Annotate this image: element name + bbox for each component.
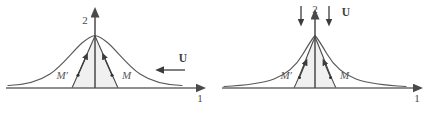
point-marker-m [111, 74, 114, 77]
figure-container: 2 1 M′ M U [0, 0, 433, 114]
m-prime-label: M′ [55, 69, 68, 81]
point-marker-m [329, 76, 332, 79]
smooth-peak-panel: 2 1 M′ M U [0, 0, 216, 114]
velocity-vector-u-label: U [179, 52, 188, 64]
vertical-axis-label: 2 [82, 14, 88, 26]
m-prime-label: M′ [279, 69, 292, 81]
horizontal-axis-label: 1 [197, 92, 203, 104]
velocity-vector-u-label: U [342, 6, 351, 18]
m-label: M [339, 69, 350, 81]
cusp-peak-panel: 2 1 M′ M U [216, 0, 433, 114]
vertical-axis-label: 2 [312, 3, 318, 15]
point-marker-m-prime [298, 76, 301, 79]
point-marker-m-prime [77, 74, 80, 77]
left-panel-canvas: 2 1 M′ M U [0, 0, 216, 114]
m-label: M [121, 69, 132, 81]
right-panel-canvas: 2 1 M′ M U [216, 0, 433, 114]
horizontal-axis-label: 1 [414, 92, 420, 104]
